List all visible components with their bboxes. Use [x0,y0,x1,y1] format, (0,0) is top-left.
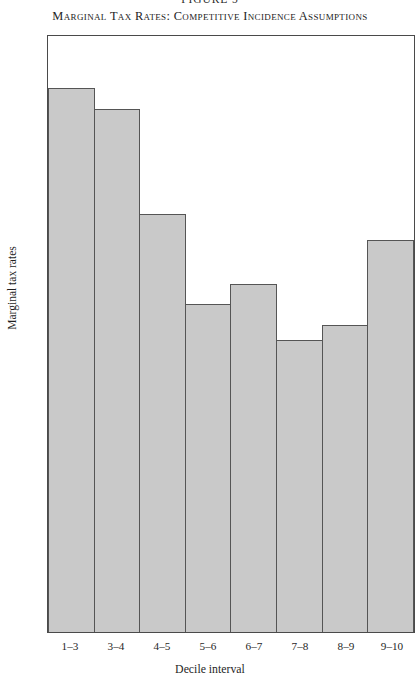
bar [48,88,95,632]
bar [276,340,323,632]
x-tick-label: 5–6 [185,640,231,652]
x-tick-label: 3–4 [93,640,139,652]
bar [322,325,369,632]
x-tick-label: 6–7 [231,640,277,652]
bar [94,109,141,632]
plot-area [47,35,415,633]
bar [185,304,232,632]
y-axis-label: Marginal tax rates [6,228,18,348]
x-tick-label: 1–3 [47,640,93,652]
chart-title: Marginal Tax Rates: Competitive Incidenc… [0,9,420,24]
x-axis-ticks: 1–33–44–55–66–77–88–99–10 [47,640,415,652]
bar [367,240,414,632]
x-tick-label: 8–9 [323,640,369,652]
bar [230,284,277,632]
x-axis-label: Decile interval [0,662,420,677]
bar-series [48,36,414,632]
figure-number: FIGURE 5 [0,0,420,5]
x-tick-label: 9–10 [369,640,415,652]
x-tick-label: 7–8 [277,640,323,652]
x-tick-label: 4–5 [139,640,185,652]
bar [139,214,186,632]
